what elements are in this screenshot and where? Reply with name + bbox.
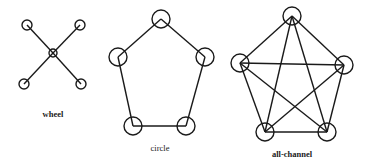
all-channel-edge: [240, 16, 292, 63]
circle-label: circle: [151, 143, 170, 153]
wheel-edge: [27, 25, 53, 53]
all-channel-edge: [265, 16, 292, 132]
all-channel-network: [231, 7, 353, 141]
wheel-network: [19, 20, 86, 89]
wheel-edge: [53, 25, 80, 53]
wheel-edge: [24, 53, 53, 84]
network-diagram-canvas: wheel circle all-channel: [0, 0, 373, 166]
circle-edge: [118, 57, 133, 126]
wheel-label: wheel: [43, 109, 64, 119]
circle-network: [109, 10, 214, 135]
network-diagram: wheel circle all-channel: [0, 0, 373, 166]
all-channel-edge: [265, 65, 344, 132]
wheel-edge: [53, 53, 81, 84]
all-channel-edge: [327, 65, 344, 132]
all-channel-label: all-channel: [272, 149, 313, 159]
all-channel-edge: [240, 63, 344, 65]
circle-edge: [186, 57, 205, 126]
